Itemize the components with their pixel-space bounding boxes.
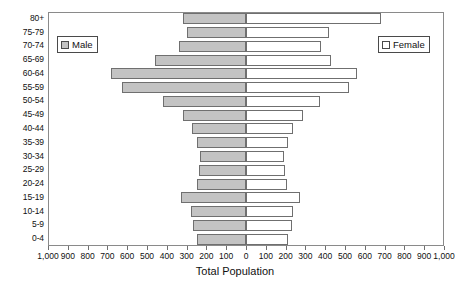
x-tick	[365, 246, 366, 250]
x-tick	[48, 246, 49, 250]
legend-male-label: Male	[72, 40, 93, 50]
bar-female	[246, 68, 357, 79]
x-tick	[68, 246, 69, 250]
bar-male	[197, 137, 247, 148]
bar-female	[246, 137, 288, 148]
age-group-label: 30-34	[0, 152, 44, 161]
x-axis-tick-labels: 1,00090080070060050040030020010001002003…	[0, 251, 470, 263]
x-tick-label: 400	[160, 251, 174, 261]
age-group-label: 50-54	[0, 96, 44, 105]
pyramid-row	[48, 123, 444, 134]
bar-male	[181, 192, 246, 203]
bar-female	[246, 179, 287, 190]
pyramid-row	[48, 55, 444, 66]
x-tick-label: 200	[279, 251, 293, 261]
bar-female	[246, 192, 300, 203]
age-group-label: 25-29	[0, 165, 44, 174]
pyramid-row	[48, 96, 444, 107]
x-tick-label: 900	[417, 251, 431, 261]
bar-female	[246, 165, 285, 176]
x-tick-label: 500	[140, 251, 154, 261]
x-tick	[187, 246, 188, 250]
x-tick-label: 600	[120, 251, 134, 261]
bar-male	[183, 110, 246, 121]
bar-female	[246, 41, 321, 52]
bar-female	[246, 110, 303, 121]
pyramid-row	[48, 13, 444, 24]
pyramid-row	[48, 151, 444, 162]
bar-female	[246, 220, 292, 231]
legend-female-swatch-icon	[382, 41, 390, 49]
bar-male	[163, 96, 246, 107]
bar-male	[187, 27, 246, 38]
x-tick-label: 0	[244, 251, 249, 261]
legend-male: Male	[57, 36, 98, 53]
x-tick-label: 900	[61, 251, 75, 261]
bar-female	[246, 123, 293, 134]
pyramid-row	[48, 206, 444, 217]
bar-male	[155, 55, 246, 66]
age-group-label: 5-9	[0, 220, 44, 229]
age-group-axis: 0-45-910-1415-1920-2425-2930-3435-3940-4…	[0, 12, 44, 246]
x-tick	[226, 246, 227, 250]
x-tick-label: 1,000	[37, 251, 58, 261]
x-tick-label: 100	[259, 251, 273, 261]
pyramid-row	[48, 234, 444, 245]
bar-female	[246, 151, 284, 162]
x-tick	[385, 246, 386, 250]
legend-male-swatch-icon	[61, 41, 69, 49]
population-pyramid-chart: 0-45-910-1415-1920-2425-2930-3435-3940-4…	[0, 0, 470, 289]
x-tick-label: 600	[358, 251, 372, 261]
bar-male	[183, 13, 246, 24]
age-group-label: 40-44	[0, 124, 44, 133]
bar-male	[197, 234, 247, 245]
x-tick-label: 800	[397, 251, 411, 261]
bar-male	[179, 41, 246, 52]
x-tick	[404, 246, 405, 250]
x-tick	[246, 246, 247, 250]
x-tick-label: 100	[219, 251, 233, 261]
x-tick-label: 400	[318, 251, 332, 261]
x-tick	[107, 246, 108, 250]
x-tick	[88, 246, 89, 250]
x-tick-label: 300	[180, 251, 194, 261]
bar-male	[192, 123, 246, 134]
x-tick	[325, 246, 326, 250]
legend-female-label: Female	[393, 40, 425, 50]
age-group-label: 15-19	[0, 193, 44, 202]
bar-male	[122, 82, 246, 93]
x-tick-label: 800	[81, 251, 95, 261]
bar-female	[246, 55, 331, 66]
x-tick	[167, 246, 168, 250]
bar-female	[246, 82, 349, 93]
x-tick	[286, 246, 287, 250]
bar-male	[111, 68, 246, 79]
age-group-label: 45-49	[0, 110, 44, 119]
x-tick-label: 700	[100, 251, 114, 261]
x-tick	[305, 246, 306, 250]
bar-male	[199, 165, 246, 176]
age-group-label: 65-69	[0, 55, 44, 64]
x-tick	[127, 246, 128, 250]
x-tick	[206, 246, 207, 250]
x-tick-label: 200	[199, 251, 213, 261]
bar-female	[246, 27, 329, 38]
pyramid-row	[48, 165, 444, 176]
x-tick-label: 1,000	[433, 251, 454, 261]
bar-male	[193, 220, 246, 231]
age-group-label: 60-64	[0, 69, 44, 78]
bar-male	[191, 206, 246, 217]
x-tick	[147, 246, 148, 250]
x-tick-label: 300	[298, 251, 312, 261]
bar-female	[246, 96, 320, 107]
pyramid-row	[48, 110, 444, 121]
pyramid-row	[48, 68, 444, 79]
age-group-label: 35-39	[0, 138, 44, 147]
pyramid-row	[48, 179, 444, 190]
x-axis-title: Total Population	[0, 265, 470, 277]
bar-male	[197, 179, 247, 190]
bar-male	[200, 151, 246, 162]
x-tick	[424, 246, 425, 250]
age-group-label: 0-4	[0, 234, 44, 243]
age-group-label: 20-24	[0, 179, 44, 188]
